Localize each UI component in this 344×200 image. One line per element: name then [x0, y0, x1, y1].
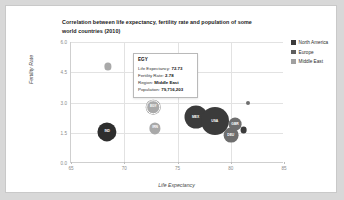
- gridline-vertical: [124, 42, 125, 162]
- x-axis-tick-label: 85: [281, 166, 286, 171]
- x-axis-tick-mark: [71, 162, 72, 164]
- tooltip-rows: Life Expectancy: 72.73Fertility Rate: 2.…: [138, 65, 193, 93]
- bubble-label: USA: [211, 120, 218, 123]
- bubble-label: MEX: [192, 115, 199, 118]
- x-axis-tick-mark: [231, 162, 232, 164]
- y-axis-tick-label: 6.0: [61, 40, 67, 45]
- bubble-label: IRN: [152, 127, 158, 130]
- legend-item[interactable]: North America: [291, 40, 328, 45]
- x-axis-tick-mark: [124, 162, 125, 164]
- legend-swatch-icon: [291, 40, 296, 45]
- tooltip-panel: EGY Life Expectancy: 72.73Fertility Rate…: [133, 53, 198, 98]
- tooltip-row-label: Life Expectancy:: [138, 66, 171, 71]
- x-axis-tick-label: 80: [228, 166, 233, 171]
- tooltip-row-value: 72.73: [171, 66, 182, 71]
- x-axis-tick-label: 65: [68, 166, 73, 171]
- chart-title: Correlation between life expectancy, fer…: [62, 18, 267, 35]
- x-axis-tick-mark: [284, 162, 285, 164]
- legend-item-label: Middle East: [299, 59, 324, 64]
- bubble-label: EGY: [150, 105, 157, 108]
- chart-card: Correlation between life expectancy, fer…: [5, 5, 337, 193]
- tooltip-row: Population: 79,716,203: [138, 86, 193, 93]
- bubble-label: DEU: [227, 133, 234, 136]
- tooltip-row: Region: Middle East: [138, 79, 193, 86]
- y-axis-tick-label: 3.0: [61, 100, 67, 105]
- x-axis-tick-label: 75: [175, 166, 180, 171]
- tooltip-row-value: Middle East: [154, 80, 178, 85]
- tooltip-row-label: Region:: [138, 80, 154, 85]
- legend-item[interactable]: Middle East: [291, 59, 328, 64]
- bubble-label: IND: [104, 130, 110, 133]
- tooltip-row: Fertility Rate: 2.78: [138, 72, 193, 79]
- y-axis-tick-label: 0.0: [61, 161, 67, 166]
- bubble-point[interactable]: [246, 101, 250, 105]
- bubble-point[interactable]: [105, 63, 112, 70]
- y-axis-tick-label: 4.5: [61, 70, 67, 75]
- legend-swatch-icon: [291, 50, 296, 55]
- tooltip-row-label: Population:: [138, 87, 161, 92]
- legend: North AmericaEuropeMiddle East: [291, 40, 328, 69]
- legend-item[interactable]: Europe: [291, 50, 328, 55]
- tooltip-row-label: Fertility Rate:: [138, 73, 165, 78]
- gridline-vertical: [231, 42, 232, 162]
- bubble-point[interactable]: EGY: [147, 100, 161, 114]
- bubble-point[interactable]: GBR: [229, 118, 242, 131]
- tooltip-row-value: 79,716,203: [161, 87, 183, 92]
- tooltip-title: EGY: [138, 57, 193, 62]
- tooltip-row-value: 2.78: [165, 73, 174, 78]
- y-axis-title: Fertility Rate: [28, 55, 34, 84]
- legend-item-label: Europe: [299, 50, 314, 55]
- bubble-point[interactable]: IND: [98, 122, 117, 141]
- x-axis-tick-mark: [178, 162, 179, 164]
- legend-item-label: North America: [299, 40, 329, 45]
- bubble-label: GBR: [231, 123, 238, 126]
- y-axis-tick-label: 1.5: [61, 130, 67, 135]
- tooltip-row: Life Expectancy: 72.73: [138, 65, 193, 72]
- legend-swatch-icon: [291, 59, 296, 64]
- bubble-point[interactable]: [240, 127, 247, 134]
- x-axis-title: Life Expectancy: [70, 182, 283, 188]
- x-axis-tick-label: 70: [122, 166, 127, 171]
